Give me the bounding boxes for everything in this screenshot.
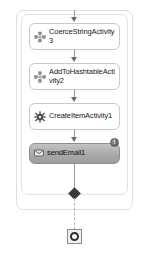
terminator-ring-icon xyxy=(70,232,79,241)
arrow-head-node3 xyxy=(71,97,77,102)
arrow-head-node4 xyxy=(71,137,77,142)
error-badge-symbol: ! xyxy=(113,138,115,146)
gear-activity-icon xyxy=(34,111,46,123)
activity-node-send-email1[interactable]: sendEmail1 xyxy=(29,143,120,164)
coerce-activity-icon xyxy=(34,31,46,43)
arrow-head-node1 xyxy=(71,17,77,22)
activity-label-create-item-activity1: CreateItemActivity1 xyxy=(49,112,116,121)
activity-node-coerce-string-activity3[interactable]: CoerceStringActivity3 xyxy=(29,23,120,50)
send-email-icon xyxy=(34,148,44,160)
activity-label-add-to-hashtable-activity2: AddToHashtableActivity2 xyxy=(49,68,116,85)
error-badge[interactable]: ! xyxy=(110,138,119,147)
arrow-head-node2 xyxy=(71,57,77,62)
connector-junction-to-terminator xyxy=(74,198,75,230)
activity-label-coerce-string-activity3: CoerceStringActivity3 xyxy=(49,28,116,45)
workflow-terminator[interactable] xyxy=(67,229,82,244)
activity-label-send-email1: sendEmail1 xyxy=(47,149,116,158)
activity-node-create-item-activity1[interactable]: CreateItemActivity1 xyxy=(29,103,120,130)
activity-node-add-to-hashtable-activity2[interactable]: AddToHashtableActivity2 xyxy=(29,63,120,90)
workflow-designer-canvas[interactable]: CoerceStringActivity3 AddToHashtableActi… xyxy=(0,0,149,256)
hashtable-activity-icon xyxy=(34,71,46,83)
